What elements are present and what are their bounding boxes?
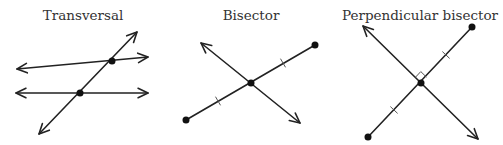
title-bisector: Bisector xyxy=(223,7,280,23)
point-dot xyxy=(183,117,190,124)
title-perpendicular-bisector: Perpendicular bisector xyxy=(342,7,499,23)
geometry-diagram: Transversal Bisector Perpendicular bisec… xyxy=(0,0,503,145)
point-dot xyxy=(365,134,372,141)
point-dot xyxy=(418,80,425,87)
line-with-arrows xyxy=(17,57,148,69)
perpendicular-bisector-figure xyxy=(363,24,478,141)
point-dot xyxy=(469,24,476,31)
line-with-arrows xyxy=(39,32,137,134)
point-dot xyxy=(109,58,116,65)
bisector-figure xyxy=(183,42,319,124)
panel-perpendicular-bisector: Perpendicular bisector xyxy=(342,7,499,141)
transversal-figure xyxy=(16,32,148,134)
title-transversal: Transversal xyxy=(43,7,124,23)
panel-transversal: Transversal xyxy=(16,7,148,134)
point-dot xyxy=(312,42,319,49)
point-dot xyxy=(77,90,84,97)
point-dot xyxy=(248,80,255,87)
panel-bisector: Bisector xyxy=(183,7,319,124)
